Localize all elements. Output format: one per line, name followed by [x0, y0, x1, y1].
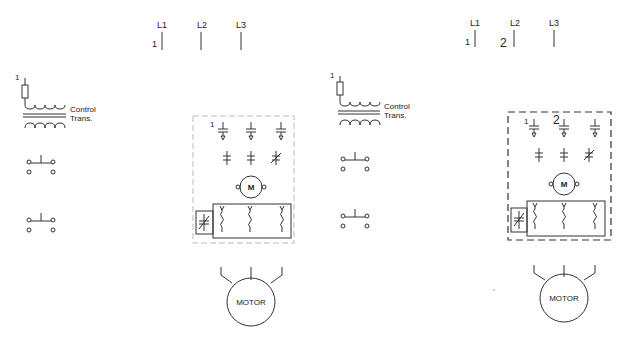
fuse-contacts [218, 122, 286, 140]
line-label-l2: L2 [510, 18, 520, 28]
stray-dot [493, 289, 495, 291]
line-marker-1: 1 [465, 37, 470, 47]
aux-contacts [223, 151, 281, 165]
coil-m: M [549, 173, 579, 195]
left-panel: L1 L2 L3 1 1 Control Trans. [15, 20, 294, 326]
line-label-l3: L3 [549, 18, 559, 28]
starter-marker-2: 2 [553, 113, 560, 127]
line-label-l1: L1 [157, 20, 167, 30]
overload-block [196, 204, 291, 238]
pushbutton-1 [27, 155, 55, 174]
pushbutton-4 [341, 209, 369, 228]
fuse-contacts [529, 119, 600, 137]
motor: MOTOR [221, 267, 282, 326]
transformer-label-1: Control [70, 105, 96, 114]
control-transformer-2: 1 Control Trans. [330, 71, 410, 125]
secondary-coil-icon [340, 120, 380, 125]
primary-coil-icon [340, 102, 380, 106]
motor: MOTOR [534, 265, 595, 322]
line-label-l1: L1 [470, 18, 480, 28]
line-marker-2: 2 [500, 36, 507, 50]
svg-text:Control: Control [384, 102, 410, 111]
svg-text:Trans.: Trans. [384, 111, 406, 120]
coil-m: M [236, 176, 266, 198]
motor-label: MOTOR [549, 294, 579, 303]
motor-label: MOTOR [236, 298, 266, 307]
starter-marker-1: 1 [210, 120, 215, 129]
starter-marker-1: 1 [524, 117, 529, 126]
primary-coil-icon [25, 105, 65, 109]
fuse-icon [337, 82, 343, 95]
middle-panel: 1 Control Trans. [330, 71, 410, 228]
line-label-l2: L2 [197, 20, 207, 30]
pushbutton-3 [341, 152, 369, 171]
pushbutton-2 [27, 213, 55, 232]
control-transformer: 1 Control Trans. [15, 73, 96, 128]
transformer-label-2: Trans. [70, 114, 92, 123]
secondary-coil-icon [25, 123, 65, 128]
fuse-icon [22, 85, 28, 98]
right-panel: L1 L2 L3 1 2 1 2 [465, 18, 611, 322]
transformer-marker: 1 [15, 73, 20, 82]
svg-text:1: 1 [330, 71, 335, 80]
line-marker-1: 1 [152, 39, 157, 49]
line-label-l3: L3 [236, 20, 246, 30]
overload-block [511, 201, 605, 236]
aux-contacts [535, 148, 594, 162]
wiring-diagram: L1 L2 L3 1 1 Control Trans. [0, 0, 625, 340]
coil-label: M [248, 183, 255, 192]
coil-label: M [561, 180, 568, 189]
